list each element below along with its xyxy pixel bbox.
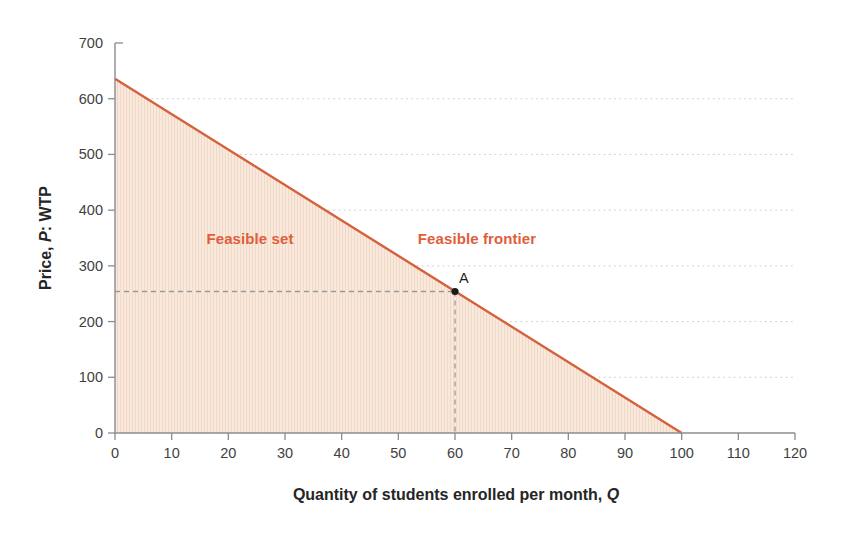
x-tick-label-30: 30 [277,445,293,461]
y-tick-label-100: 100 [79,369,103,385]
y-tick-label-300: 300 [79,258,103,274]
y-tick-label-600: 600 [79,91,103,107]
x-tick-label-10: 10 [164,445,180,461]
y-axis-title-variable: P [37,231,54,242]
x-tick-label-20: 20 [220,445,236,461]
y-axis-title-suffix: : WTP [37,186,54,231]
chart-canvas: 0102030405060708090100110120010020030040… [0,0,852,548]
x-tick-label-80: 80 [560,445,576,461]
feasible-frontier-chart: 0102030405060708090100110120010020030040… [0,0,852,548]
x-axis-title-text: Quantity of students enrolled per month, [293,486,607,503]
y-tick-label-400: 400 [79,202,103,218]
point-a-label: A [459,270,469,286]
x-tick-label-70: 70 [504,445,520,461]
x-axis-title: Quantity of students enrolled per month,… [0,486,852,504]
x-tick-label-90: 90 [617,445,633,461]
point-a-marker [451,288,458,295]
feasible-frontier-label: Feasible frontier [406,230,548,247]
y-axis-title-prefix: Price, [37,242,54,290]
x-tick-label-50: 50 [390,445,406,461]
x-tick-label-110: 110 [727,445,750,461]
feasible-set-label: Feasible set [190,230,310,247]
x-tick-label-60: 60 [447,445,463,461]
y-tick-label-200: 200 [79,314,103,330]
x-tick-label-120: 120 [783,445,807,461]
y-tick-label-0: 0 [95,425,103,441]
x-axis-title-variable: Q [607,486,619,503]
y-tick-label-700: 700 [79,35,103,51]
y-tick-label-500: 500 [79,146,103,162]
x-tick-label-40: 40 [334,445,350,461]
y-axis-title: Price, P: WTP [37,186,55,290]
x-tick-label-0: 0 [111,445,119,461]
x-tick-label-100: 100 [670,445,694,461]
